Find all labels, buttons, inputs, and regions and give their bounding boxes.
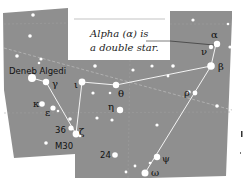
- edge-mark: [241, 131, 243, 137]
- label-gamma: γ: [52, 78, 58, 89]
- callout-line-1: Alpha (α) is: [89, 28, 148, 39]
- star-alpha: [214, 41, 220, 47]
- star-36: [68, 125, 73, 130]
- label-rho: ρ: [184, 87, 190, 98]
- label-nu: ν: [201, 46, 207, 57]
- edge-mark-2: [240, 152, 241, 154]
- label-iota: ι: [74, 79, 78, 90]
- label-alpha: α: [211, 29, 218, 40]
- star-kappa: [39, 101, 45, 107]
- label-kappa: κ: [33, 98, 40, 109]
- label-theta: θ: [118, 88, 124, 99]
- label-m30: M30: [55, 141, 73, 151]
- star-omega: [142, 170, 149, 177]
- label-psi: ψ: [162, 153, 170, 164]
- label-beta: β: [218, 61, 224, 72]
- star-epsilon: [50, 105, 55, 110]
- star-psi: [154, 154, 160, 160]
- star-chart: Alpha (α) is a double star.: [0, 0, 244, 188]
- star-iota: [79, 79, 86, 86]
- label-eta: η: [108, 101, 114, 112]
- label-deneb-algedi: Deneb Algedi: [9, 66, 66, 76]
- star-eta: [117, 107, 123, 113]
- star-24: [112, 152, 118, 158]
- label-epsilon: ε: [45, 107, 50, 118]
- label-zeta: ζ: [79, 126, 85, 137]
- callout-line-2: a double star.: [90, 42, 159, 53]
- label-24: 24: [100, 150, 111, 160]
- star-nu: [209, 45, 213, 49]
- star-rho: [193, 91, 198, 96]
- star-gamma: [43, 79, 49, 85]
- star-beta: [207, 62, 215, 70]
- label-omega: ω: [151, 167, 159, 178]
- label-36: 36: [55, 125, 66, 135]
